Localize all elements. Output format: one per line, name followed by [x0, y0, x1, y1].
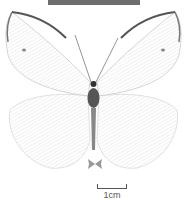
scale-bar: 1cm — [97, 184, 127, 200]
mini-butterfly-icon — [87, 158, 103, 170]
butterfly-specimen — [0, 0, 187, 206]
scale-bar-label: 1cm — [97, 190, 127, 200]
scale-bar-line — [97, 184, 127, 189]
